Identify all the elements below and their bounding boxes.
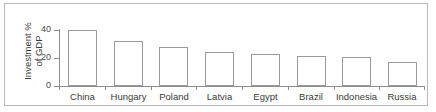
bar-brazil: [297, 56, 326, 86]
bar-poland: [159, 47, 188, 86]
x-label-brazil: Brazil: [288, 91, 334, 103]
x-label-egypt: Egypt: [242, 91, 289, 103]
bar-hungary: [114, 41, 143, 86]
bar-china: [68, 30, 97, 86]
chart-screenshot: Investment % of GDP 0 20 40 China Hung: [0, 0, 436, 112]
bar-egypt: [251, 54, 280, 86]
x-label-indonesia: Indonesia: [332, 91, 381, 103]
x-label-latvia: Latvia: [196, 91, 243, 103]
bar-latvia: [205, 52, 234, 86]
bar-russia: [388, 62, 417, 87]
x-label-russia: Russia: [379, 91, 425, 103]
x-label-poland: Poland: [150, 91, 198, 103]
x-label-hungary: Hungary: [104, 91, 153, 103]
x-label-china: China: [59, 91, 106, 103]
bar-indonesia: [342, 57, 371, 86]
